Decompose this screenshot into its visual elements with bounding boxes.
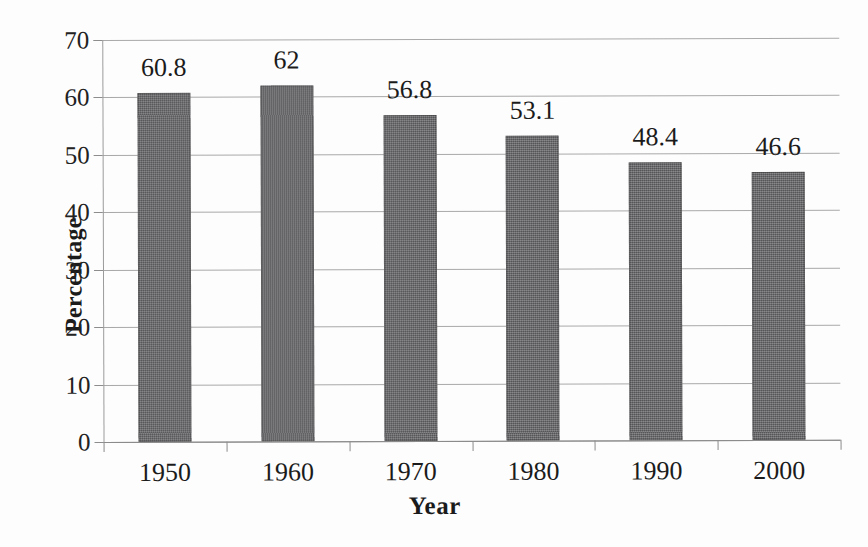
bar-value-label: 48.4 [633, 124, 679, 150]
x-tick [349, 441, 350, 451]
y-axis-label: 20 [65, 315, 90, 340]
bar [260, 85, 314, 441]
x-tick [104, 442, 105, 452]
plot-area: 010203040506070 60.86256.853.148.446.6 [102, 38, 840, 442]
y-axis-line [102, 40, 104, 442]
bar [629, 162, 683, 440]
bar-value-label: 46.6 [755, 134, 801, 160]
gridline-10 [103, 382, 840, 385]
gridline-60 [102, 95, 839, 98]
y-tick-30 [94, 270, 103, 271]
y-axis-label: 40 [65, 200, 90, 225]
bar [383, 115, 437, 441]
bar-value-label: 56.8 [387, 77, 433, 103]
y-tick-10 [94, 385, 103, 386]
gridline-70 [102, 38, 839, 41]
y-tick-70 [93, 40, 102, 41]
x-axis-label: 1960 [262, 459, 314, 485]
x-axis-title: Year [1, 491, 868, 522]
x-axis-label: 1990 [630, 458, 682, 484]
x-tick [226, 442, 227, 452]
gridlines [102, 38, 839, 40]
x-tick [595, 440, 596, 450]
chart-skew-wrapper: Percentage 010203040506070 60.86256.853.… [0, 0, 868, 547]
y-tick-40 [94, 212, 103, 213]
x-tick [472, 441, 473, 451]
y-tick-50 [94, 155, 103, 156]
x-axis-label: 1970 [385, 459, 437, 485]
x-axis-label: 2000 [753, 458, 805, 484]
bar [137, 93, 191, 442]
y-axis-label: 30 [65, 257, 90, 282]
bar-value-label: 62 [274, 47, 300, 73]
chart-figure: Percentage 010203040506070 60.86256.853.… [0, 0, 868, 547]
gridline-20 [103, 325, 840, 328]
y-axis-label: 70 [64, 28, 89, 53]
gridline-30 [103, 267, 840, 270]
y-tick-0 [95, 442, 104, 443]
gridline-50 [103, 153, 840, 156]
y-axis-label: 60 [64, 85, 89, 110]
y-tick-60 [93, 97, 102, 98]
x-axis-label: 1950 [139, 460, 191, 486]
x-tick [718, 440, 719, 450]
bar [506, 136, 560, 441]
x-tick [841, 440, 842, 450]
gridline-40 [103, 210, 840, 213]
bar-value-label: 53.1 [510, 98, 556, 124]
bar-value-label: 60.8 [141, 55, 187, 81]
y-axis-label: 50 [65, 142, 90, 167]
bar [752, 172, 806, 440]
y-axis-label: 10 [65, 372, 90, 397]
y-tick-20 [94, 327, 103, 328]
y-axis-label: 0 [78, 430, 91, 455]
x-axis-label: 1980 [507, 459, 559, 485]
